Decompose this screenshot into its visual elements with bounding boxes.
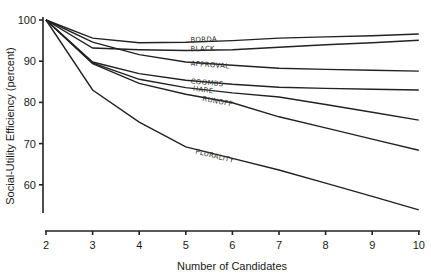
series-label-runoff: RUNOFF [202, 95, 234, 108]
x-axis: 2345678910 [43, 231, 425, 251]
series-line-borda [46, 20, 419, 43]
series-label-borda: BORDA [190, 35, 217, 44]
x-tick-label: 6 [229, 239, 235, 251]
x-tick-label: 4 [136, 239, 142, 251]
y-axis: 10090807060 [18, 14, 43, 213]
x-tick-label: 10 [413, 239, 425, 251]
series-line-approval [46, 20, 419, 71]
x-tick-label: 3 [90, 239, 96, 251]
y-tick-label: 70 [24, 138, 36, 150]
series-labels: BORDABLACKAPPROVALCOOMBSHARERUNOFFPLURAL… [190, 35, 235, 165]
y-tick-label: 60 [24, 179, 36, 191]
series-label-black: BLACK [190, 45, 215, 53]
line-chart: 10090807060 2345678910 BORDABLACKAPPROVA… [0, 0, 431, 280]
series-label-plurality: PLURALITY [195, 148, 236, 165]
y-tick-label: 100 [18, 14, 36, 26]
y-tick-label: 80 [24, 96, 36, 108]
y-axis-title: Social-Utility Efficiency (percent) [4, 47, 16, 205]
plot-series [46, 20, 419, 210]
x-tick-label: 2 [43, 239, 49, 251]
y-tick-label: 90 [24, 55, 36, 67]
x-axis-title: Number of Candidates [177, 260, 288, 272]
series-label-hare: HARE [193, 85, 214, 95]
x-tick-label: 9 [369, 239, 375, 251]
x-tick-label: 5 [183, 239, 189, 251]
x-tick-label: 8 [323, 239, 329, 251]
series-label-approval: APPROVAL [190, 60, 229, 71]
series-line-coombs [46, 20, 419, 90]
x-tick-label: 7 [276, 239, 282, 251]
